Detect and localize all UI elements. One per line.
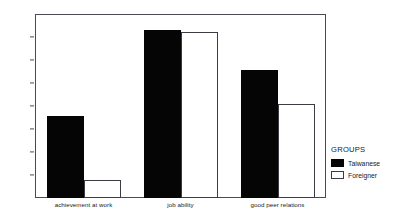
legend-label-taiwanese: Taiwanese: [348, 160, 380, 167]
bar-chart: 4.24.03.83.63.43.23.02.82.6 GROUPS Taiwa…: [0, 0, 402, 223]
legend-label-foreigner: Foreigner: [348, 172, 377, 179]
legend-title: GROUPS: [331, 145, 401, 154]
bar-foreigner-2: [278, 104, 315, 198]
y-axis-tick-mark: [30, 82, 34, 83]
y-axis-tick-mark: [30, 105, 34, 106]
bar-taiwanese-2: [241, 70, 278, 198]
y-axis-tick-mark: [30, 36, 34, 37]
legend-swatch-foreigner: [331, 171, 344, 179]
legend-item-taiwanese: Taiwanese: [331, 159, 401, 167]
y-axis-tick-mark: [30, 59, 34, 60]
x-axis-category-label: job ability: [167, 201, 193, 208]
x-axis-category-label: achievement at work: [55, 201, 113, 208]
bar-taiwanese-1: [144, 30, 181, 198]
legend-item-foreigner: Foreigner: [331, 171, 401, 179]
bar-foreigner-1: [181, 32, 218, 198]
y-axis-tick-mark: [30, 128, 34, 129]
bar-taiwanese-0: [47, 116, 84, 198]
x-axis-category-label: good peer relations: [251, 201, 305, 208]
bars-layer: [35, 14, 326, 198]
y-axis-tick-mark: [30, 151, 34, 152]
y-axis: 4.24.03.83.63.43.23.02.82.6: [0, 0, 35, 223]
y-axis-tick-mark: [30, 174, 34, 175]
legend-swatch-taiwanese: [331, 159, 344, 167]
chart-legend: GROUPS Taiwanese Foreigner: [331, 145, 401, 183]
bar-foreigner-0: [84, 180, 121, 198]
